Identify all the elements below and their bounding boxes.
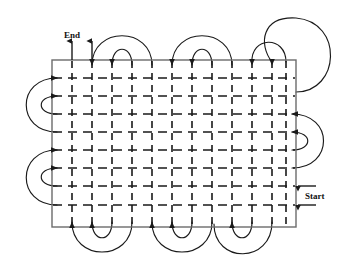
- loop-arrowhead-top: [249, 59, 255, 66]
- loop-arrowhead-right: [291, 111, 298, 117]
- loop-arrowhead-top: [189, 59, 195, 66]
- start-label: Start: [305, 191, 325, 201]
- loop-arrowhead-bottom: [89, 222, 95, 229]
- loop-arrowhead-left: [51, 147, 58, 153]
- coverage-path-diagram: End Start: [0, 0, 351, 276]
- loop-arrowhead-bottom: [69, 222, 75, 229]
- end-arrows: [72, 41, 92, 60]
- loop-arrowhead-bottom: [149, 222, 155, 229]
- grid-horizontal-lines: [53, 78, 295, 205]
- turn-arc-top-large-3: [264, 18, 330, 92]
- loop-arrowhead-top: [269, 59, 275, 66]
- turn-arc-bottom-small-2: [172, 222, 192, 238]
- loop-arrowhead-top: [109, 59, 115, 66]
- loop-arrowheads: [51, 59, 298, 228]
- coverage-region-boundary: [52, 60, 296, 227]
- turn-arc-left-small-2: [41, 168, 57, 186]
- loop-arrowhead-left: [51, 165, 58, 171]
- turn-arc-top-small-1: [112, 49, 132, 65]
- loop-arrowhead-top: [169, 59, 175, 66]
- loop-arrowhead-top: [89, 59, 95, 66]
- turn-arc-right-small-1: [292, 132, 308, 150]
- turn-arc-bottom-small-3: [232, 222, 252, 238]
- turn-arc-left-small-1: [41, 96, 57, 114]
- loop-arrowhead-bottom: [229, 222, 235, 229]
- coverage-grid: [53, 61, 295, 226]
- loop-arrowhead-left: [51, 93, 58, 99]
- turn-arc-top-small-2: [192, 49, 212, 65]
- grid-vertical-lines: [72, 61, 286, 226]
- loop-arrowhead-right: [291, 129, 298, 135]
- loop-arrowhead-bottom: [169, 222, 175, 229]
- end-label: End: [64, 30, 80, 40]
- loop-arrowhead-left: [51, 75, 58, 81]
- turn-arc-bottom-small-1: [92, 222, 112, 238]
